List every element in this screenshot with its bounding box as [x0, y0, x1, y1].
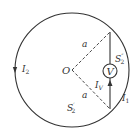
circuit-diagram: V O a a I2 I1 IV S″2 S′2: [0, 0, 137, 138]
center-label: O: [62, 65, 70, 76]
arrow-down-icon: [13, 67, 17, 73]
radius-label-upper: a: [82, 39, 87, 49]
radius-label-lower: a: [82, 90, 87, 100]
current-i1-label: I1: [121, 93, 129, 104]
current-iv-label: IV: [94, 80, 104, 91]
radius-upper-dashed: [72, 32, 110, 70]
current-i2-label: I2: [21, 64, 30, 75]
region-s2-double-prime-label: S″2: [115, 52, 124, 65]
arrow-up-icon: [108, 80, 113, 86]
region-s2-prime-label: S′2: [67, 101, 76, 114]
